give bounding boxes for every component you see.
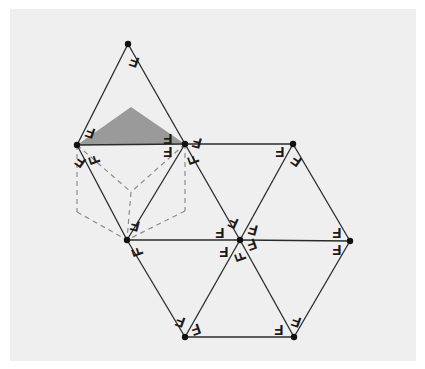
vertex-dot-middle-left — [124, 237, 130, 243]
f-bottom-right-a: F — [274, 322, 283, 339]
vertex-dot-middle-right — [347, 238, 353, 244]
cube-edge-1 — [131, 144, 185, 192]
f-center-nw: F — [225, 213, 240, 232]
orientation-marker-layer: FFFFFFFFFFFFFFFFFFFFFFFF — [71, 52, 341, 339]
f-apex-top: F — [127, 52, 141, 71]
f-bottom-left-a: F — [173, 312, 187, 331]
vertex-dot-middle-center — [237, 237, 243, 243]
geometry-diagram: FFFFFFFFFFFFFFFFFFFFFFFF — [0, 0, 425, 369]
f-upper-mid-d: F — [183, 153, 202, 167]
f-center-w: F — [215, 225, 224, 242]
f-middle-left-b: F — [127, 245, 146, 259]
vertex-dot-apex-top — [125, 41, 131, 47]
vertex-dot-layer — [74, 41, 353, 340]
f-upper-mid-c: F — [190, 134, 203, 153]
net-edge-layer — [77, 44, 350, 337]
f-middle-right-b: F — [332, 242, 341, 259]
f-middle-right-a: F — [332, 225, 341, 242]
f-upper-right-a: F — [275, 144, 284, 161]
vertex-dot-upper-left — [74, 142, 80, 148]
f-upper-right-b: F — [287, 151, 304, 170]
f-upper-mid-b: F — [163, 144, 172, 161]
f-middle-left-a: F — [128, 217, 141, 236]
vertex-dot-bottom-right — [291, 334, 297, 340]
f-center-sw: F — [219, 244, 228, 261]
f-bottom-right-b: F — [289, 312, 303, 331]
vertex-dot-bottom-left — [182, 334, 188, 340]
vertex-dot-upper-right — [290, 141, 296, 147]
vertex-dot-upper-middle — [182, 141, 188, 147]
figure-canvas: FFFFFFFFFFFFFFFFFFFFFFFF — [0, 0, 425, 369]
cube-edge-0 — [77, 145, 131, 192]
